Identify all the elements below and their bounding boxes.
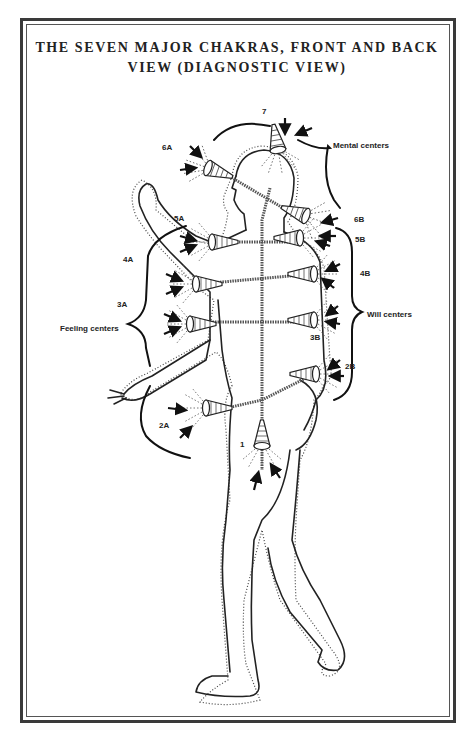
incoming-arrows: [164, 118, 344, 490]
label-chakra-2a: 2A: [159, 421, 169, 430]
label-chakra-4b: 4B: [360, 269, 370, 278]
chakra-2b-cone: [290, 354, 340, 394]
label-chakra-4a: 4A: [123, 255, 133, 264]
chakra-2a-cone: [182, 388, 232, 428]
chakra-4b-cone: [288, 254, 338, 294]
label-chakra-7: 7: [262, 107, 267, 116]
label-chakra-5a: 5A: [174, 214, 184, 223]
chakra-7-cone: [254, 121, 302, 177]
label-chakra-3a: 3A: [117, 300, 127, 309]
label-chakra-1: 1: [240, 440, 245, 449]
feeling-brace: [128, 226, 186, 366]
label-mental-centers: Mental centers: [333, 141, 390, 150]
body-outline: [108, 150, 345, 697]
label-feeling-centers: Feeling centers: [60, 324, 119, 333]
chakra-4a-cone: [172, 264, 222, 304]
label-chakra-6a: 6A: [162, 143, 172, 152]
label-chakra-3b: 3B: [310, 333, 320, 342]
chakra-5a-cone: [188, 222, 238, 262]
label-chakra-5b: 5B: [355, 235, 365, 244]
label-will-centers: Will centers: [367, 310, 412, 319]
chakra-figure: 7 6A Mental centers 6B 5A 5B 4A 4B 3A Wi…: [0, 0, 470, 735]
chakra-3a-cone: [166, 304, 216, 344]
label-chakra-2b: 2B: [345, 362, 355, 371]
label-chakra-6b: 6B: [354, 215, 364, 224]
group-braces: [128, 124, 362, 458]
